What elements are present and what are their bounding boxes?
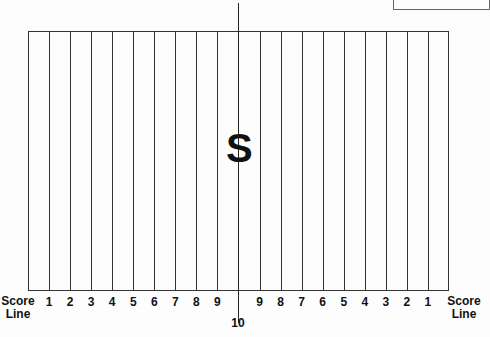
yard-line xyxy=(302,32,303,290)
yard-label: 6 xyxy=(147,295,161,309)
yard-line xyxy=(281,32,282,290)
yard-line xyxy=(407,32,408,290)
center-mark: S xyxy=(226,128,253,168)
yard-label: 2 xyxy=(63,295,77,309)
yard-line xyxy=(428,32,429,290)
left-score-line-label: Score Line xyxy=(0,295,36,321)
yard-label: 2 xyxy=(400,295,414,309)
yard-label: 7 xyxy=(168,295,182,309)
yard-line xyxy=(70,32,71,290)
yard-line xyxy=(91,32,92,290)
yard-label: 8 xyxy=(189,295,203,309)
right-line-word: Line xyxy=(446,308,482,321)
right-score-line-label: Score Line xyxy=(446,295,482,321)
yard-label: 5 xyxy=(337,295,351,309)
yard-line xyxy=(344,32,345,290)
yard-label: 7 xyxy=(295,295,309,309)
yard-line xyxy=(217,32,218,290)
yard-line xyxy=(365,32,366,290)
yard-label: 3 xyxy=(84,295,98,309)
yard-label: 6 xyxy=(316,295,330,309)
center-yard-label: 10 xyxy=(231,316,244,330)
yard-label: 1 xyxy=(421,295,435,309)
yard-line xyxy=(175,32,176,290)
yard-line xyxy=(386,32,387,290)
yard-line xyxy=(49,32,50,290)
yard-label: 4 xyxy=(358,295,372,309)
yard-line xyxy=(154,32,155,290)
yard-label: 8 xyxy=(274,295,288,309)
yard-label: 9 xyxy=(253,295,267,309)
yard-line xyxy=(133,32,134,290)
yard-line xyxy=(196,32,197,290)
corner-box xyxy=(393,0,490,10)
yard-label: 9 xyxy=(210,295,224,309)
yard-label: 5 xyxy=(126,295,140,309)
yard-label: 3 xyxy=(379,295,393,309)
yard-line xyxy=(323,32,324,290)
yard-line xyxy=(260,32,261,290)
left-line-word: Line xyxy=(0,308,36,321)
yard-line xyxy=(112,32,113,290)
yard-label: 1 xyxy=(42,295,56,309)
yard-label: 4 xyxy=(105,295,119,309)
